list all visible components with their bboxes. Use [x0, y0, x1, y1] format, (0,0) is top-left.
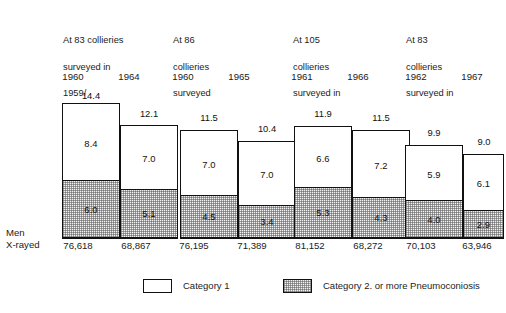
- bar-1960-b-cat2-value: 4.5: [201, 211, 216, 222]
- group-header-2: At 86 collieries surveyed: [173, 21, 263, 113]
- bar-1961-segment-category1: 6.6: [295, 127, 351, 189]
- bar-1965-segment-category1: 7.0: [239, 142, 295, 207]
- bar-1964-segment-category1: 7.0: [121, 126, 177, 191]
- men-xrayed-count-1962: 70,103: [391, 240, 451, 251]
- bar-1964-cat2-value: 5.1: [141, 208, 156, 219]
- bar-1961-cat2-value: 5.3: [315, 207, 330, 218]
- bar-total-1964: 12.1: [120, 108, 178, 119]
- bar-1960-b-segment-category2: 4.5: [181, 195, 237, 237]
- bar-1962-segment-category1: 5.9: [406, 146, 462, 202]
- bar-total-1962: 9.9: [405, 127, 463, 138]
- men-xrayed-count-1965: 71,389: [222, 240, 282, 251]
- group-header-2-line-1: At 86: [173, 34, 263, 47]
- men-xrayed-count-1961: 81,152: [280, 240, 340, 251]
- bar-1965-cat1-value: 7.0: [259, 169, 274, 180]
- bar-1965[interactable]: 7.0 3.4: [238, 141, 296, 238]
- year-label-1962: 1962: [388, 71, 444, 82]
- bar-1966-segment-category1: 7.2: [353, 131, 409, 199]
- bar-1967-cat1-value: 6.1: [476, 178, 491, 189]
- men-xrayed-label-line-1: Men: [6, 227, 40, 239]
- bar-1960-b[interactable]: 7.0 4.5: [180, 130, 238, 238]
- legend-label-category2: Category 2. or more Pneumoconiosis: [323, 280, 480, 291]
- bar-1964-cat1-value: 7.0: [141, 153, 156, 164]
- bar-1962[interactable]: 5.9 4.0: [405, 145, 463, 238]
- bar-1962-cat1-value: 5.9: [426, 169, 441, 180]
- group-header-4: At 83 collieries surveyed in: [406, 21, 502, 113]
- year-label-1964: 1964: [101, 71, 157, 82]
- pneumoconiosis-stacked-bar-chart: At 83 collieries surveyed in 1959/ 1960 …: [0, 0, 506, 313]
- bar-1966-cat2-value: 4.3: [373, 212, 388, 223]
- men-xrayed-label: Men X-rayed: [6, 227, 40, 252]
- group-header-1-line-1: At 83 collieries: [63, 34, 167, 47]
- group-header-3-line-3: surveyed in: [293, 87, 389, 100]
- bar-1966[interactable]: 7.2 4.3: [352, 130, 410, 238]
- bar-1966-cat1-value: 7.2: [373, 160, 388, 171]
- group-header-4-line-1: At 83: [406, 34, 502, 47]
- group-header-3: At 105 collieries surveyed in: [293, 21, 389, 113]
- bar-total-1965: 10.4: [238, 123, 296, 134]
- bar-1962-cat2-value: 4.0: [426, 214, 441, 225]
- men-xrayed-label-line-2: X-rayed: [6, 239, 40, 251]
- men-xrayed-count-1964: 68,867: [106, 240, 166, 251]
- year-label-1967: 1967: [444, 71, 500, 82]
- men-xrayed-count-1966: 68,272: [338, 240, 398, 251]
- bar-total-1961: 11.9: [294, 108, 352, 119]
- bar-1967-segment-category2: 2.9: [464, 210, 503, 237]
- legend-swatch-category2: [283, 279, 312, 293]
- bar-1966-segment-category2: 4.3: [353, 197, 409, 237]
- bar-1965-cat2-value: 3.4: [259, 216, 274, 227]
- bar-total-1960-b: 11.5: [180, 112, 238, 123]
- bar-1960-a[interactable]: 8.4 6.0: [62, 103, 120, 238]
- bar-1961-cat1-value: 6.6: [315, 153, 330, 164]
- bar-1960-a-segment-category2: 6.0: [63, 180, 119, 237]
- men-xrayed-count-1960-b: 76,195: [164, 240, 224, 251]
- year-label-1966: 1966: [330, 71, 386, 82]
- bar-total-1967: 9.0: [463, 136, 505, 147]
- bar-1960-b-cat1-value: 7.0: [201, 159, 216, 170]
- bar-1961[interactable]: 6.6 5.3: [294, 126, 352, 238]
- bar-total-1966: 11.5: [352, 112, 410, 123]
- bar-1962-segment-category2: 4.0: [406, 200, 462, 237]
- bar-1967-cat2-value: 2.9: [476, 219, 491, 230]
- year-label-1960-b: 1960: [155, 71, 211, 82]
- men-xrayed-count-1960-a: 76,618: [48, 240, 108, 251]
- bar-1961-segment-category2: 5.3: [295, 187, 351, 237]
- year-label-1965: 1965: [211, 71, 267, 82]
- bar-1967[interactable]: 6.1 2.9: [463, 154, 504, 238]
- bar-1960-a-cat2-value: 6.0: [83, 204, 98, 215]
- bar-1964-segment-category2: 5.1: [121, 189, 177, 237]
- legend-swatch-category1: [143, 279, 172, 293]
- bar-1960-b-segment-category1: 7.0: [181, 131, 237, 197]
- bar-1967-segment-category1: 6.1: [464, 155, 503, 212]
- bar-total-1960-a: 14.4: [62, 90, 120, 101]
- bar-1960-a-cat1-value: 8.4: [83, 138, 98, 149]
- bar-1960-a-segment-category1: 8.4: [63, 104, 119, 182]
- year-label-1960-a: 1960: [45, 71, 101, 82]
- men-xrayed-count-1967: 63,946: [447, 240, 506, 251]
- legend-label-category1: Category 1: [183, 280, 229, 291]
- bar-1965-segment-category2: 3.4: [239, 205, 295, 237]
- group-header-3-line-1: At 105: [293, 34, 389, 47]
- group-header-2-line-3: surveyed: [173, 87, 263, 100]
- group-header-4-line-3: surveyed in: [406, 87, 502, 100]
- year-label-1961: 1961: [274, 71, 330, 82]
- bar-1964[interactable]: 7.0 5.1: [120, 125, 178, 238]
